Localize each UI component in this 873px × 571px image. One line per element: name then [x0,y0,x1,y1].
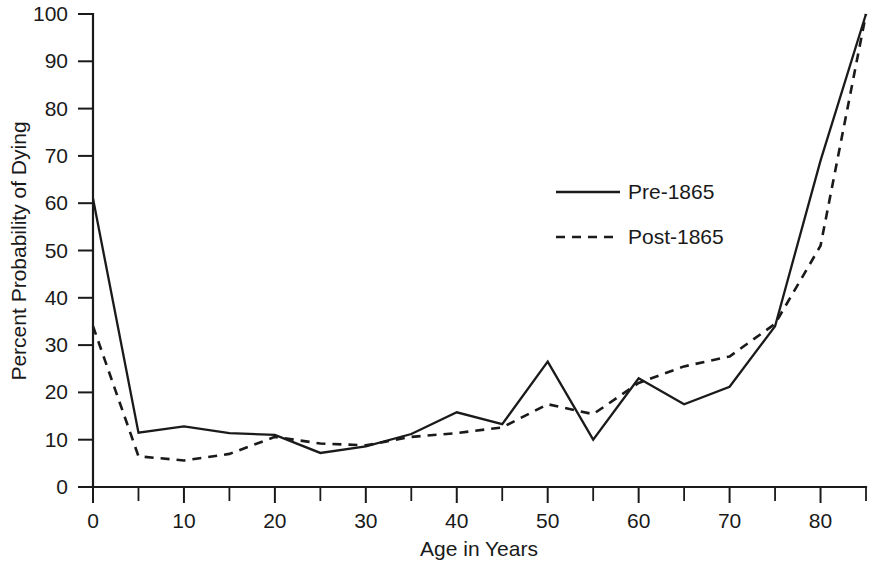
y-tick-label: 70 [45,144,68,167]
series-line-post-1865 [93,14,866,461]
x-tick-label: 40 [445,509,468,532]
y-tick-label: 0 [56,475,68,498]
x-axis-tick-labels: 01020304050607080 [87,509,832,532]
x-tick-label: 20 [263,509,286,532]
y-tick-label: 10 [45,428,68,451]
chart-legend: Pre-1865Post-1865 [556,180,724,248]
y-tick-label: 30 [45,333,68,356]
y-tick-label: 100 [33,2,68,25]
legend-label-post-1865: Post-1865 [628,225,724,248]
x-axis-tick-marks [93,487,866,503]
y-tick-label: 80 [45,97,68,120]
line-chart-canvas: 0102030405060708090100 01020304050607080… [0,0,873,571]
x-axis-title: Age in Years [420,537,538,560]
y-axis-tick-labels: 0102030405060708090100 [33,2,68,498]
y-tick-label: 20 [45,380,68,403]
y-tick-label: 50 [45,239,68,262]
x-tick-label: 10 [172,509,195,532]
x-tick-label: 50 [536,509,559,532]
x-tick-label: 30 [354,509,377,532]
y-axis-tick-marks [78,14,93,487]
x-tick-label: 70 [718,509,741,532]
x-tick-label: 80 [809,509,832,532]
y-tick-label: 90 [45,49,68,72]
series-line-pre-1865 [93,14,866,453]
x-tick-label: 0 [87,509,99,532]
y-axis-title: Percent Probability of Dying [7,121,30,380]
series-lines [93,14,866,461]
y-tick-label: 60 [45,191,68,214]
chart-figure: 0102030405060708090100 01020304050607080… [0,0,873,571]
legend-label-pre-1865: Pre-1865 [628,180,714,203]
x-tick-label: 60 [627,509,650,532]
y-tick-label: 40 [45,286,68,309]
